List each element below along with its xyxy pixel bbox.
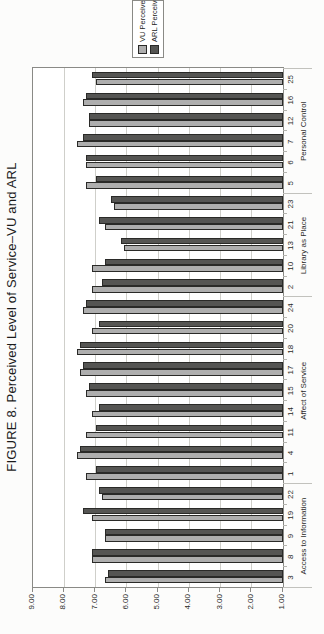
category-axis-tick — [283, 400, 287, 401]
category-label-q17: 17 — [286, 360, 295, 381]
arl-series-swatch — [150, 45, 159, 54]
category-axis-tick — [283, 504, 287, 505]
category-axis-tick — [283, 525, 287, 526]
bar-vu-q10 — [92, 266, 283, 273]
value-axis-tick — [94, 588, 95, 592]
arl-series-label: ARL Perceived — [150, 0, 159, 42]
group-separator — [283, 296, 312, 297]
category-label-q11: 11 — [286, 422, 295, 443]
value-axis-label-5.00: 5.00 — [153, 594, 161, 628]
category-label-q25: 25 — [286, 69, 295, 90]
bar-vu-q23 — [114, 203, 283, 210]
bar-vu-q12 — [89, 120, 283, 127]
gridline-8 — [64, 68, 65, 587]
bar-arl-q8 — [92, 549, 283, 556]
value-axis-tick — [219, 588, 220, 592]
chart-title: FIGURE 8. Perceived Level of Service–VU … — [4, 0, 19, 634]
bar-arl-q5 — [96, 176, 284, 183]
bar-arl-q13 — [121, 238, 284, 245]
category-label-q6: 6 — [286, 152, 295, 173]
category-axis-tick — [283, 89, 287, 90]
bar-arl-q10 — [105, 259, 283, 266]
value-axis-label-3.00: 3.00 — [216, 594, 224, 628]
value-axis-label-6.00: 6.00 — [122, 594, 130, 628]
value-axis-label-7.00: 7.00 — [91, 594, 99, 628]
category-axis-tick — [283, 213, 287, 214]
group-label-access-to-information: Access to Information — [299, 466, 308, 606]
category-axis-tick — [283, 317, 287, 318]
chart-legend: VU Perceived ARL Perceived — [132, 0, 164, 58]
bar-vu-q17 — [80, 369, 283, 376]
bar-arl-q20 — [99, 321, 283, 328]
value-axis-tick — [32, 588, 33, 592]
group-separator-edge — [283, 587, 312, 588]
category-axis-tick — [283, 421, 287, 422]
category-label-q1: 1 — [286, 463, 295, 484]
category-label-q9: 9 — [286, 526, 295, 547]
category-label-q19: 19 — [286, 505, 295, 526]
category-label-q3: 3 — [286, 567, 295, 588]
bar-arl-q2 — [102, 279, 283, 286]
bar-arl-q16 — [86, 93, 283, 100]
bar-vu-q13 — [124, 245, 283, 252]
category-label-q10: 10 — [286, 256, 295, 277]
category-label-q2: 2 — [286, 277, 295, 298]
category-label-q7: 7 — [286, 131, 295, 152]
category-label-q4: 4 — [286, 443, 295, 464]
bar-vu-q19 — [92, 515, 283, 522]
bar-vu-q5 — [86, 182, 283, 189]
category-label-q23: 23 — [286, 194, 295, 215]
bar-vu-q18 — [77, 349, 283, 356]
bar-arl-q11 — [96, 425, 284, 432]
category-label-q21: 21 — [286, 214, 295, 235]
category-axis-tick — [283, 442, 287, 443]
value-axis-tick — [63, 588, 64, 592]
category-label-q20: 20 — [286, 318, 295, 339]
category-axis-tick — [283, 379, 287, 380]
category-label-q16: 16 — [286, 90, 295, 111]
bar-vu-q1 — [86, 473, 283, 480]
vu-series-swatch — [138, 45, 147, 54]
plot-area — [32, 67, 284, 588]
bar-arl-q17 — [83, 363, 283, 370]
bar-vu-q24 — [83, 307, 283, 314]
value-axis-tick — [125, 588, 126, 592]
category-label-q18: 18 — [286, 339, 295, 360]
value-axis-label-4.00: 4.00 — [184, 594, 192, 628]
value-axis-tick — [250, 588, 251, 592]
bar-arl-q6 — [86, 155, 283, 162]
category-axis-tick — [283, 172, 287, 173]
group-separator-edge — [283, 68, 312, 69]
value-axis-tick — [157, 588, 158, 592]
bar-arl-q25 — [92, 72, 283, 79]
value-axis-tick — [282, 588, 283, 592]
category-label-q22: 22 — [286, 484, 295, 505]
bar-arl-q21 — [99, 217, 283, 224]
category-label-q13: 13 — [286, 235, 295, 256]
category-axis-tick — [283, 359, 287, 360]
figure-8-chart: FIGURE 8. Perceived Level of Service–VU … — [0, 0, 324, 634]
category-axis-tick — [283, 566, 287, 567]
bar-vu-q20 — [92, 328, 283, 335]
bar-vu-q4 — [77, 452, 283, 459]
value-axis-label-2.00: 2.00 — [247, 594, 255, 628]
bar-arl-q19 — [83, 508, 283, 515]
group-separator — [283, 483, 312, 484]
bar-arl-q23 — [111, 196, 283, 203]
legend-entry-arl: ARL Perceived — [148, 3, 160, 54]
value-axis-tick — [188, 588, 189, 592]
category-axis-tick — [283, 234, 287, 235]
category-label-q5: 5 — [286, 173, 295, 194]
legend-entry-vu: VU Perceived — [136, 3, 148, 54]
bar-vu-q25 — [96, 79, 284, 86]
category-label-q14: 14 — [286, 401, 295, 422]
bar-vu-q15 — [86, 390, 283, 397]
category-label-q15: 15 — [286, 380, 295, 401]
bar-arl-q18 — [80, 342, 283, 349]
value-axis-label-9.00: 9.00 — [28, 594, 36, 628]
category-label-q24: 24 — [286, 297, 295, 318]
bar-arl-q1 — [96, 466, 284, 473]
bar-vu-q6 — [86, 162, 283, 169]
category-axis-tick — [283, 130, 287, 131]
bar-vu-q7 — [77, 141, 283, 148]
